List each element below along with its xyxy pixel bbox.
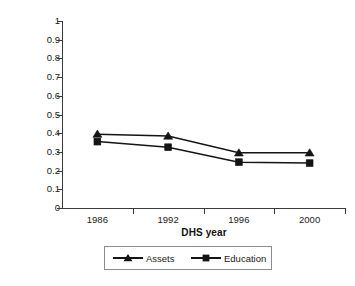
- x-axis-tick-label: 1992: [138, 214, 198, 225]
- x-axis-tick-label: 1986: [67, 214, 127, 225]
- y-axis-tick-mark: [57, 171, 62, 172]
- y-axis-tick-mark: [57, 189, 62, 190]
- square-marker-icon: [235, 159, 242, 166]
- x-axis-tick-label: 2000: [280, 214, 340, 225]
- square-marker-icon: [94, 138, 101, 145]
- x-axis-tick-mark: [204, 209, 205, 214]
- series-assets: [93, 130, 314, 156]
- chart-plot-area: [0, 0, 355, 286]
- x-axis-tick-mark: [274, 209, 275, 214]
- legend-label: Assets: [146, 253, 175, 264]
- square-marker-icon: [191, 252, 221, 264]
- y-axis-tick-mark: [57, 96, 62, 97]
- y-axis-tick-mark: [57, 77, 62, 78]
- x-axis-title: DHS year: [62, 227, 346, 238]
- y-axis-tick-mark: [57, 208, 62, 209]
- x-axis-tick-mark: [345, 209, 346, 214]
- x-axis-tick-mark: [133, 209, 134, 214]
- y-axis-tick-mark: [57, 115, 62, 116]
- triangle-marker-icon: [113, 252, 143, 264]
- x-axis-tick-label: 1996: [209, 214, 269, 225]
- y-axis-tick-mark: [57, 40, 62, 41]
- legend-label: Education: [224, 253, 266, 264]
- square-marker-icon: [165, 144, 172, 151]
- chart-figure: Level of regional HI 00.10.20.30.40.50.6…: [0, 0, 355, 286]
- y-axis-tick-mark: [57, 152, 62, 153]
- y-axis-tick-mark: [57, 58, 62, 59]
- square-marker-icon: [306, 160, 313, 167]
- legend-item-assets[interactable]: Assets: [113, 247, 175, 269]
- chart-legend: AssetsEducation: [104, 246, 272, 270]
- y-axis-tick-mark: [57, 21, 62, 22]
- legend-item-education[interactable]: Education: [191, 247, 266, 269]
- y-axis-tick-mark: [57, 133, 62, 134]
